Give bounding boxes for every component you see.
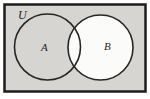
set-a-label: A	[40, 41, 48, 53]
venn-diagram: U A B	[0, 0, 150, 99]
set-b-label: B	[104, 40, 111, 52]
venn-diagram-svg: U A B	[0, 0, 150, 99]
universal-set-label: U	[18, 8, 28, 22]
